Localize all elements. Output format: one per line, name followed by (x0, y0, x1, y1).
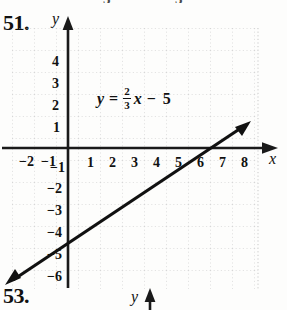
x-tick-label-4: 4 (153, 156, 160, 170)
y-tick-label--3: −3 (47, 204, 62, 218)
y-tick-label-3: 3 (52, 77, 59, 91)
y-tick-label--2: −2 (47, 182, 62, 196)
equation-annotation: y = 2 3 x − 5 (97, 87, 173, 112)
y-tick-label-1: 1 (53, 121, 60, 135)
x-tick-label-8: 8 (241, 156, 248, 170)
equation-lhs: y (97, 90, 104, 108)
equation-minus: − (147, 90, 156, 108)
coordinate-graph: −2 −1 1 2 3 4 5 6 7 8 4 3 2 1 −1 −2 −3 −… (0, 14, 287, 289)
next-graph-y-axis (142, 288, 158, 310)
x-tick-label-2: 2 (109, 156, 116, 170)
cutoff-fragment-left: 3 (103, 0, 111, 3)
x-tick-label-3: 3 (131, 156, 138, 170)
next-graph-y-axis-label: y (131, 288, 138, 306)
problem-number-53: 53. (3, 283, 29, 309)
cutoff-fragment-right: 3 (175, 0, 183, 3)
equation-constant: 5 (163, 90, 171, 108)
graph-svg (0, 14, 287, 289)
equation-fraction: 2 3 (123, 86, 131, 111)
x-axis-arrowhead (262, 142, 278, 153)
x-tick-label-1: 1 (87, 156, 94, 170)
x-tick-label-7: 7 (219, 156, 226, 170)
fraction-denominator: 3 (123, 100, 131, 111)
y-axis-arrowhead (63, 16, 74, 30)
x-tick-label-5: 5 (175, 156, 182, 170)
y-tick-label-2: 2 (52, 99, 59, 113)
y-tick-label--6: −6 (47, 270, 62, 284)
x-tick-label--2: −2 (19, 155, 34, 169)
equation-variable: x (134, 90, 142, 108)
fraction-numerator: 2 (123, 86, 131, 97)
y-tick-label--5: −5 (47, 248, 62, 262)
y-tick-label--4: −4 (47, 226, 62, 240)
y-tick-label--1: −1 (50, 161, 65, 175)
textbook-page: 3 3 51. y x (0, 0, 287, 310)
equation-equals: = (109, 90, 118, 108)
x-tick-label-6: 6 (197, 156, 204, 170)
y-tick-label-4: 4 (52, 55, 59, 69)
